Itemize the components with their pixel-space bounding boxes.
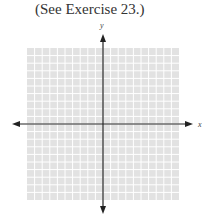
y-axis-down-arrow-icon — [100, 206, 106, 214]
y-axis-up-arrow-icon — [100, 34, 106, 42]
x-axis-label: x — [197, 120, 202, 129]
y-axis-label: y — [99, 21, 104, 30]
x-axis-right-arrow-icon — [185, 121, 193, 127]
x-axis-left-arrow-icon — [12, 121, 20, 127]
coordinate-grid: x y — [0, 0, 206, 218]
